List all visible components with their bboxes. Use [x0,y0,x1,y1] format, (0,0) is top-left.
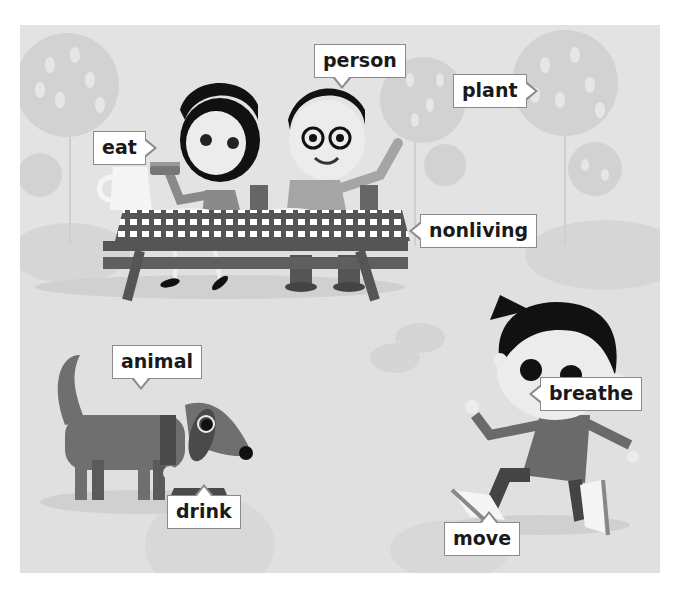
label-eat-text: eat [102,136,137,158]
label-eat: eat [93,131,146,165]
label-animal-text: animal [121,350,193,372]
label-breathe-text: breathe [549,382,633,404]
label-drink-text: drink [176,500,232,522]
label-nonliving-text: nonliving [429,219,528,241]
label-person-text: person [323,49,397,71]
picnic-illustration: eat person plant nonliving animal drink … [20,25,660,573]
tree-right [512,30,622,245]
label-move-text: move [453,527,511,549]
label-breathe: breathe [540,377,642,411]
label-animal: animal [112,345,202,379]
label-move: move [444,522,520,556]
label-plant: plant [453,74,527,108]
label-plant-text: plant [462,79,518,101]
scene-artwork [20,25,660,573]
pitcher [99,167,152,210]
label-drink: drink [167,495,241,529]
label-person: person [314,44,406,78]
label-nonliving: nonliving [420,214,537,248]
